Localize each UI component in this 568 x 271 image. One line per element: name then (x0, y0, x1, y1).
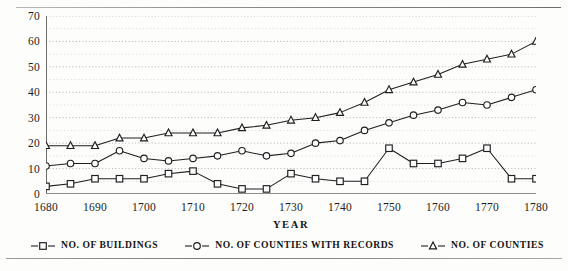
legend-key-circle-icon (184, 238, 210, 250)
chart-legend: NO. OF BUILDINGSNO. OF COUNTIES WITH REC… (24, 236, 550, 252)
y-tick-30: 30 (14, 112, 40, 124)
x-tick-1700: 1700 (132, 201, 156, 213)
x-axis-tick-labels: 1680169017001710172017301740175017601770… (46, 201, 536, 217)
bottom-divider-rule (6, 258, 562, 259)
legend-label-2: NO. OF COUNTIES (451, 239, 544, 250)
x-tick-1760: 1760 (426, 201, 450, 213)
x-tick-1730: 1730 (279, 201, 303, 213)
x-tick-1750: 1750 (377, 201, 401, 213)
x-tick-1780: 1780 (524, 201, 548, 213)
legend-item-0: NO. OF BUILDINGS (30, 238, 158, 250)
data-series-layer (46, 16, 536, 194)
chart-figure: 010203040506070 168016901700171017201730… (0, 0, 568, 271)
y-tick-50: 50 (14, 61, 40, 73)
series-2 (46, 38, 536, 149)
x-tick-1680: 1680 (34, 201, 58, 213)
x-axis-title: YEAR (46, 219, 536, 230)
legend-item-1: NO. OF COUNTIES WITH RECORDS (184, 238, 394, 250)
y-tick-10: 10 (14, 163, 40, 175)
x-tick-1720: 1720 (230, 201, 254, 213)
legend-key-triangle-icon (420, 238, 446, 250)
legend-label-0: NO. OF BUILDINGS (61, 239, 158, 250)
legend-label-1: NO. OF COUNTIES WITH RECORDS (215, 239, 394, 250)
y-tick-70: 70 (14, 10, 40, 22)
x-tick-1690: 1690 (83, 201, 107, 213)
x-tick-1770: 1770 (475, 201, 499, 213)
y-tick-40: 40 (14, 86, 40, 98)
y-axis-tick-labels: 010203040506070 (8, 16, 40, 194)
legend-item-2: NO. OF COUNTIES (420, 238, 544, 250)
x-tick-1740: 1740 (328, 201, 352, 213)
plot-area (46, 16, 536, 194)
y-tick-0: 0 (14, 188, 40, 200)
y-tick-20: 20 (14, 137, 40, 149)
top-divider-rule (16, 7, 561, 8)
y-tick-60: 60 (14, 35, 40, 47)
legend-key-square-icon (30, 238, 56, 250)
x-tick-1710: 1710 (181, 201, 205, 213)
